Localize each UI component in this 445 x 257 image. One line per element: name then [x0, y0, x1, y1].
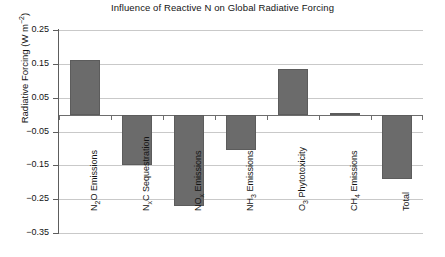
gridline [59, 233, 423, 234]
y-tick-mark [53, 165, 59, 166]
x-category-label: O3 Phytotoxicity [297, 147, 309, 211]
y-tick-mark [53, 233, 59, 234]
y-tick-mark [53, 132, 59, 133]
x-category-label: N2O Emissions [89, 150, 101, 211]
bar [278, 69, 308, 115]
gridline [59, 30, 423, 31]
y-tick-label: −0.35 [26, 227, 49, 237]
x-tick-mark [163, 115, 164, 120]
y-tick-mark [53, 64, 59, 65]
x-tick-mark [371, 115, 372, 120]
x-tick-mark [422, 115, 423, 120]
gridline [59, 64, 423, 65]
x-category-label: CH4 Emissions [349, 150, 361, 210]
y-tick-label: 0.15 [31, 58, 49, 68]
gridline [59, 199, 423, 200]
x-category-label: Total [401, 192, 411, 211]
bar [382, 115, 412, 179]
y-tick-label: −0.15 [26, 159, 49, 169]
y-axis-title: Radiative Forcing (W m−2) [18, 0, 30, 138]
gridline [59, 98, 423, 99]
bar [330, 113, 360, 115]
y-tick-label: 0.25 [31, 24, 49, 34]
y-tick-label: −0.25 [26, 193, 49, 203]
plot-area: N2O EmissionsNxC SequestrationNOx Emissi… [59, 30, 423, 233]
x-tick-mark [267, 115, 268, 120]
chart-figure: Influence of Reactive N on Global Radiat… [0, 0, 445, 257]
y-tick-mark [53, 30, 59, 31]
chart-title: Influence of Reactive N on Global Radiat… [0, 2, 445, 13]
x-tick-mark [59, 115, 60, 120]
x-category-label: NxC Sequestration [141, 136, 153, 211]
x-tick-mark [111, 115, 112, 120]
y-tick-mark [53, 199, 59, 200]
y-tick-label: 0.05 [31, 92, 49, 102]
bar [70, 60, 100, 114]
y-tick-label: −0.05 [26, 126, 49, 136]
x-tick-mark [319, 115, 320, 120]
gridline [59, 165, 423, 166]
y-tick-mark [53, 98, 59, 99]
x-category-label: NH3 Emissions [245, 150, 257, 210]
x-tick-mark [215, 115, 216, 120]
bar [226, 115, 256, 151]
x-category-label: NOx Emissions [193, 150, 205, 211]
